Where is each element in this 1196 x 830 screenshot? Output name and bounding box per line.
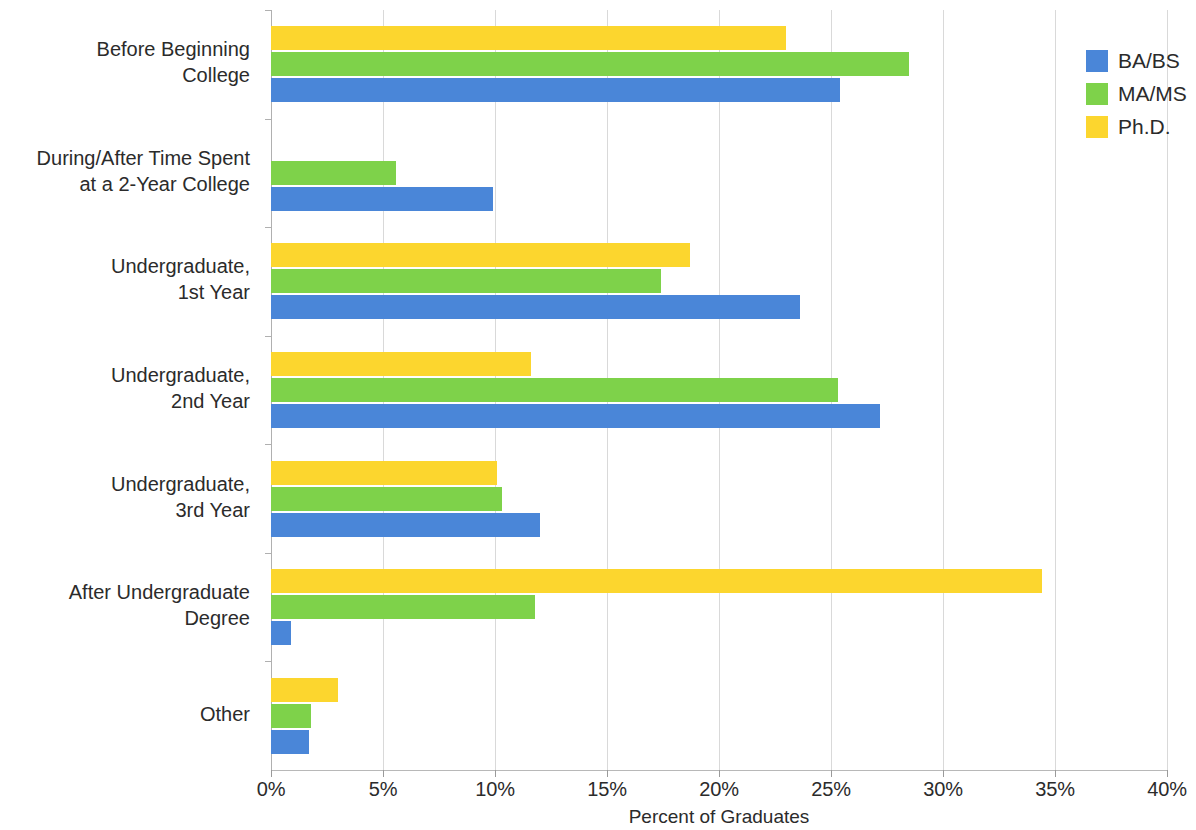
legend-swatch-icon <box>1086 83 1108 105</box>
tick-label-0pct: 0% <box>257 778 286 801</box>
bar <box>271 487 502 511</box>
tickmark-0pct <box>271 770 272 777</box>
tickmark-5pct <box>383 770 384 777</box>
tick-label-40pct: 40% <box>1147 778 1186 801</box>
bar <box>271 187 493 211</box>
plot-area <box>271 10 1167 770</box>
tickmark-30pct <box>943 770 944 777</box>
category-tickmark <box>265 227 271 228</box>
tickmark-15pct <box>607 770 608 777</box>
bar <box>271 269 661 293</box>
tickmark-35pct <box>1055 770 1056 777</box>
bar <box>271 378 838 402</box>
legend-item[interactable]: Ph.D. <box>1086 110 1196 143</box>
category-axis-labels: Before Beginning CollegeDuring/After Tim… <box>0 10 262 770</box>
bar <box>271 243 690 267</box>
legend-swatch-icon <box>1086 116 1108 138</box>
bar-group <box>271 336 1167 445</box>
tick-label-15pct: 15% <box>587 778 626 801</box>
category-tickmark <box>265 336 271 337</box>
bar <box>271 513 540 537</box>
bar <box>271 26 786 50</box>
bar <box>271 595 535 619</box>
bar-group <box>271 661 1167 770</box>
category-label: Undergraduate, 3rd Year <box>111 471 250 523</box>
x-axis-tickmarks <box>271 770 1167 777</box>
category-label: Before Beginning College <box>97 36 250 88</box>
x-axis-tick-labels: 0%5%10%15%20%25%30%35%40% <box>271 778 1167 804</box>
bar-group <box>271 227 1167 336</box>
tickmark-40pct <box>1167 770 1168 777</box>
legend-item[interactable]: BA/BS <box>1086 44 1196 77</box>
bar-group <box>271 10 1167 119</box>
tickmark-25pct <box>831 770 832 777</box>
bar <box>271 569 1042 593</box>
category-tickmark <box>265 661 271 662</box>
bar <box>271 621 291 645</box>
category-tickmark <box>265 10 271 11</box>
legend: BA/BSMA/MSPh.D. <box>1086 44 1196 143</box>
bar <box>271 78 840 102</box>
tick-label-25pct: 25% <box>811 778 850 801</box>
bar <box>271 352 531 376</box>
bar-group <box>271 119 1167 228</box>
tick-label-35pct: 35% <box>1035 778 1074 801</box>
category-label: Undergraduate, 1st Year <box>111 253 250 305</box>
legend-label: MA/MS <box>1118 82 1187 106</box>
tick-label-20pct: 20% <box>699 778 738 801</box>
legend-label: Ph.D. <box>1118 115 1171 139</box>
bar <box>271 678 338 702</box>
bar-group <box>271 444 1167 553</box>
bar-chart: Before Beginning CollegeDuring/After Tim… <box>0 0 1196 830</box>
tick-label-10pct: 10% <box>475 778 514 801</box>
category-tickmark <box>265 553 271 554</box>
bar <box>271 704 311 728</box>
tick-label-30pct: 30% <box>923 778 962 801</box>
tick-label-5pct: 5% <box>369 778 398 801</box>
legend-label: BA/BS <box>1118 49 1180 73</box>
legend-item[interactable]: MA/MS <box>1086 77 1196 110</box>
tickmark-10pct <box>495 770 496 777</box>
bar <box>271 161 396 185</box>
bar <box>271 295 800 319</box>
category-label: Other <box>200 701 250 727</box>
category-tickmark <box>265 119 271 120</box>
x-axis-title: Percent of Graduates <box>271 806 1167 828</box>
category-label: During/After Time Spent at a 2-Year Coll… <box>37 145 250 197</box>
legend-swatch-icon <box>1086 50 1108 72</box>
bar <box>271 52 909 76</box>
category-label: Undergraduate, 2nd Year <box>111 362 250 414</box>
tickmark-20pct <box>719 770 720 777</box>
category-tickmark <box>265 444 271 445</box>
category-label: After Undergraduate Degree <box>69 579 250 631</box>
bar <box>271 730 309 754</box>
bar-group <box>271 553 1167 662</box>
bar <box>271 461 497 485</box>
bar <box>271 404 880 428</box>
